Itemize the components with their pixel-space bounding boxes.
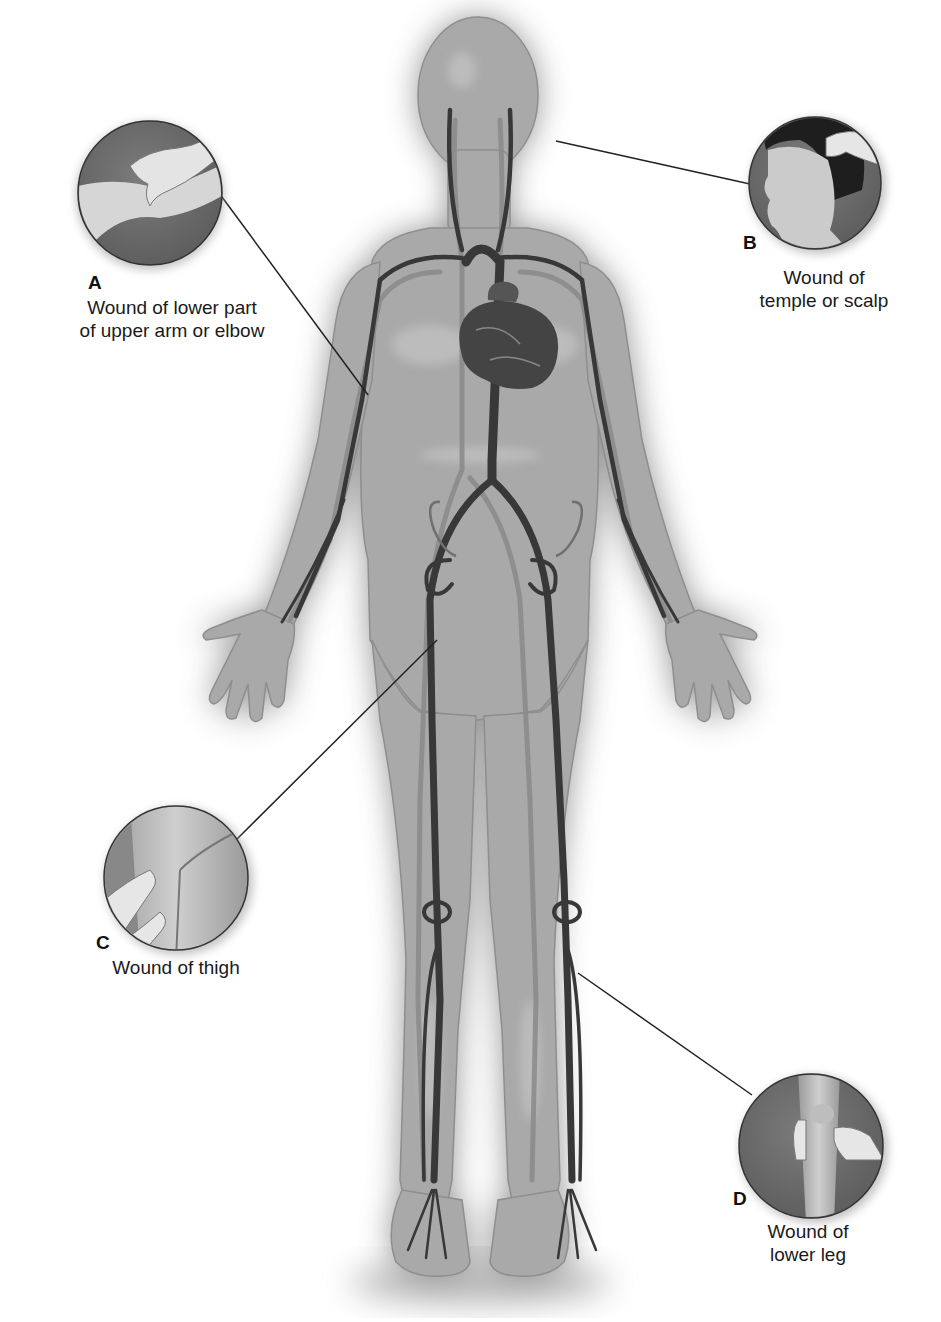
caption-line: Wound of: [748, 1220, 868, 1243]
caption-line: lower leg: [748, 1243, 868, 1266]
callout-letter-d: D: [733, 1188, 747, 1210]
caption-line: of upper arm or elbow: [72, 319, 272, 342]
callout-caption-b: Wound of temple or scalp: [744, 266, 904, 312]
callout-letter-b: B: [743, 232, 757, 254]
caption-line: Wound of: [744, 266, 904, 289]
callout-letter-a: A: [88, 272, 102, 294]
callout-caption-d: Wound of lower leg: [748, 1220, 868, 1266]
callout-caption-a: Wound of lower part of upper arm or elbo…: [72, 296, 272, 342]
callout-caption-c: Wound of thigh: [96, 956, 256, 979]
circulatory-pressure-point-diagram: [0, 0, 941, 1322]
caption-line: temple or scalp: [744, 289, 904, 312]
caption-line: Wound of thigh: [96, 956, 256, 979]
callout-letter-c: C: [96, 932, 110, 954]
caption-line: Wound of lower part: [72, 296, 272, 319]
